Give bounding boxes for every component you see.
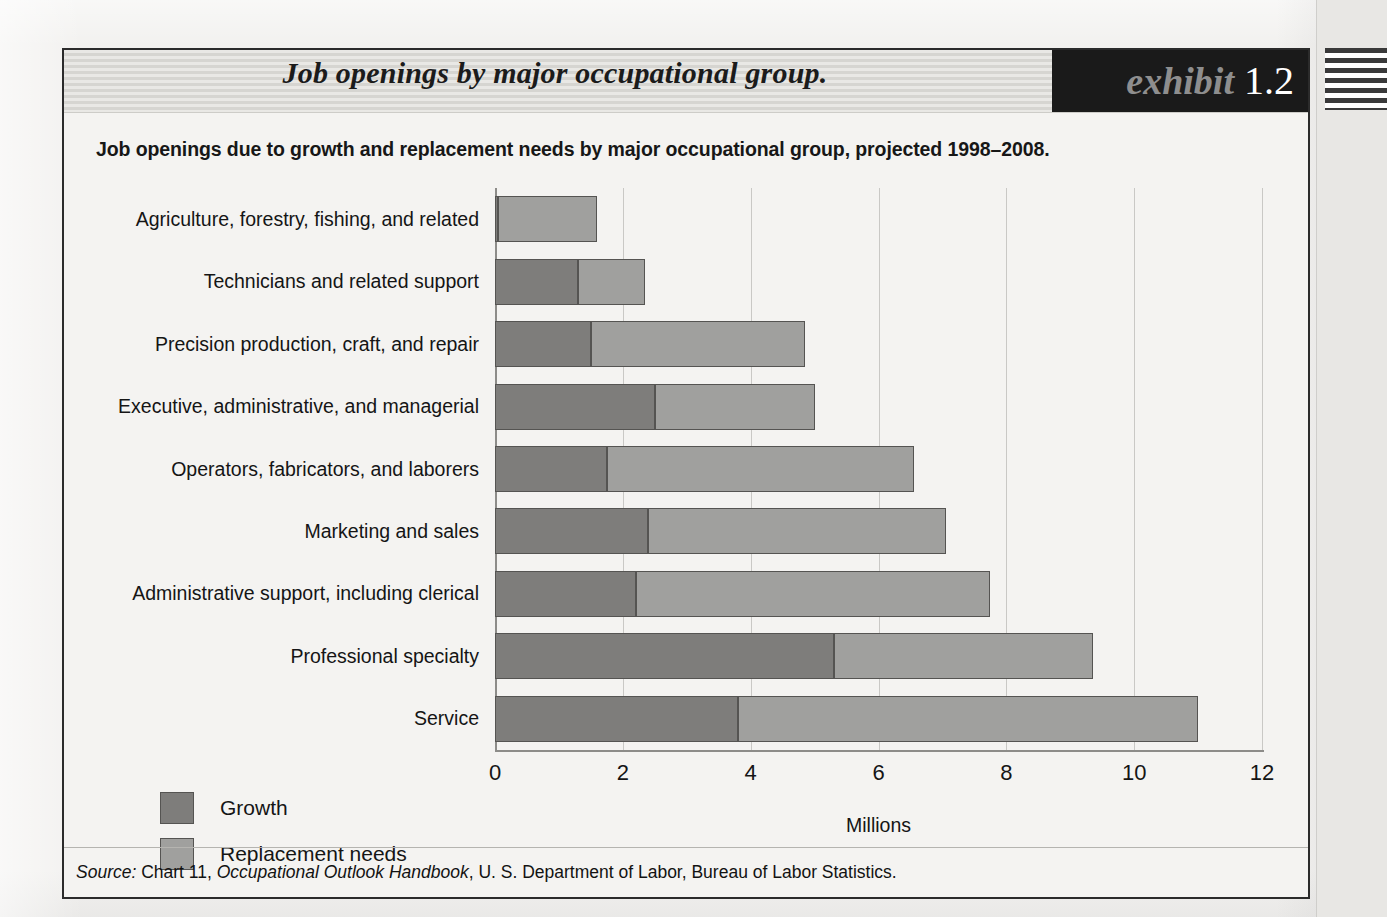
source-note: Source: Chart 11, Occupational Outlook H… (76, 862, 897, 883)
exhibit-badge-number: 1.2 (1244, 61, 1294, 101)
bar-row (64, 446, 1308, 492)
x-tick-label-2: 2 (617, 760, 629, 786)
bar-segment-replacement-needs (834, 633, 1093, 679)
source-publication-title: Occupational Outlook Handbook (217, 862, 469, 882)
bar-row (64, 571, 1308, 617)
bar-segment-replacement-needs (607, 446, 914, 492)
legend-item-growth: Growth (160, 792, 407, 824)
chart-subtitle: Job openings due to growth and replaceme… (96, 138, 1050, 161)
bar-row (64, 508, 1308, 554)
x-axis-line (495, 750, 1264, 752)
bar-segment-growth (495, 571, 636, 617)
bar-segment-replacement-needs (655, 384, 815, 430)
bar-segment-growth (495, 259, 578, 305)
bar-row (64, 384, 1308, 430)
source-text-after: , U. S. Department of Labor, Bureau of L… (469, 862, 897, 882)
x-tick-label-8: 8 (1000, 760, 1012, 786)
bar-segment-replacement-needs (738, 696, 1198, 742)
x-tick-label-12: 12 (1250, 760, 1274, 786)
source-text-before: Chart 11, (136, 862, 216, 882)
bar-segment-growth (495, 446, 607, 492)
bar-chart: Millions 024681012Agriculture, forestry,… (64, 178, 1308, 838)
legend-label-growth: Growth (220, 796, 288, 820)
exhibit-panel: Job openings by major occupational group… (62, 48, 1310, 899)
bar-segment-replacement-needs (578, 259, 645, 305)
bar-row (64, 259, 1308, 305)
page-background: Job openings by major occupational group… (0, 0, 1387, 917)
edge-stripe-decoration (1325, 48, 1387, 110)
bar-segment-growth (495, 508, 648, 554)
bar-row (64, 321, 1308, 367)
x-tick-label-0: 0 (489, 760, 501, 786)
bar-segment-replacement-needs (648, 508, 945, 554)
x-axis-title: Millions (495, 814, 1262, 837)
bar-segment-growth (495, 321, 591, 367)
bar-segment-growth (495, 384, 655, 430)
bar-segment-replacement-needs (591, 321, 805, 367)
book-page-edge (1316, 0, 1387, 917)
bar-row (64, 196, 1308, 242)
exhibit-number-badge: exhibit 1.2 (1052, 50, 1308, 112)
legend-swatch-growth (160, 792, 194, 824)
source-lead: Source: (76, 862, 136, 882)
bar-row (64, 633, 1308, 679)
bar-segment-replacement-needs (498, 196, 597, 242)
bar-segment-replacement-needs (636, 571, 991, 617)
x-tick-label-4: 4 (745, 760, 757, 786)
exhibit-title: Job openings by major occupational group… (64, 56, 1046, 90)
exhibit-badge-word: exhibit (1126, 62, 1234, 100)
x-tick-label-10: 10 (1122, 760, 1146, 786)
bar-segment-growth (495, 633, 834, 679)
bar-row (64, 696, 1308, 742)
source-divider (64, 847, 1308, 848)
bar-segment-growth (495, 696, 738, 742)
exhibit-title-bar: Job openings by major occupational group… (64, 50, 1308, 113)
x-tick-label-6: 6 (872, 760, 884, 786)
